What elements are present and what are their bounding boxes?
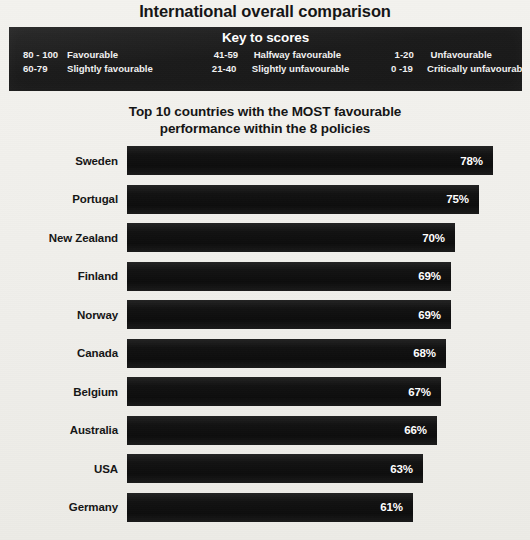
poster-page: International overall comparison Key to … xyxy=(0,0,530,540)
bar-category-label: Germany xyxy=(0,501,127,513)
bar-category-label: Finland xyxy=(0,270,127,282)
bar-track: 75% xyxy=(127,185,530,214)
bar-row: New Zealand70% xyxy=(0,223,530,252)
chart-title-line-2: performance within the 8 policies xyxy=(0,120,530,137)
key-range: 1-20 xyxy=(395,49,431,60)
bar-row: Finland69% xyxy=(0,262,530,291)
bar-row: USA63% xyxy=(0,454,530,483)
bar: 69% xyxy=(127,300,451,329)
bar: 75% xyxy=(127,185,479,214)
key-label: Critically unfavourable xyxy=(427,63,530,74)
bar: 78% xyxy=(127,146,493,175)
bar: 67% xyxy=(127,377,441,406)
bar-category-label: Portugal xyxy=(0,193,127,205)
key-range: 60-79 xyxy=(23,63,67,74)
key-to-scores-grid: 80 - 100 Favourable 41-59 Halfway favour… xyxy=(9,49,522,74)
key-row: 80 - 100 Favourable 41-59 Halfway favour… xyxy=(9,49,522,60)
bar-value-label: 78% xyxy=(460,155,493,167)
key-entry-favourable: 80 - 100 Favourable xyxy=(9,49,214,60)
key-range: 80 - 100 xyxy=(23,49,67,60)
bar-category-label: New Zealand xyxy=(0,232,127,244)
horizontal-bar-chart: Sweden78%Portugal75%New Zealand70%Finlan… xyxy=(0,146,530,540)
bar-track: 68% xyxy=(127,339,530,368)
bar-value-label: 63% xyxy=(390,463,423,475)
bar-track: 69% xyxy=(127,262,530,291)
chart-title-line-1: Top 10 countries with the MOST favourabl… xyxy=(0,103,530,120)
bar-track: 63% xyxy=(127,454,530,483)
key-label: Halfway favourable xyxy=(254,49,341,60)
bar: 61% xyxy=(127,493,413,522)
bar-track: 61% xyxy=(127,493,530,522)
key-label: Favourable xyxy=(67,49,118,60)
key-to-scores-title: Key to scores xyxy=(9,30,522,45)
key-range: 21-40 xyxy=(212,63,252,74)
bar-value-label: 70% xyxy=(422,232,455,244)
bar-category-label: USA xyxy=(0,463,127,475)
key-label: Slightly favourable xyxy=(67,63,153,74)
bar-row: Norway69% xyxy=(0,300,530,329)
key-row: 60-79 Slightly favourable 21-40 Slightly… xyxy=(9,63,522,74)
bar: 70% xyxy=(127,223,455,252)
bar-category-label: Sweden xyxy=(0,155,127,167)
bar-row: Belgium67% xyxy=(0,377,530,406)
bar-category-label: Norway xyxy=(0,309,127,321)
key-entry-slightly-unfavourable: 21-40 Slightly unfavourable xyxy=(212,63,391,74)
bar-row: Portugal75% xyxy=(0,185,530,214)
chart-title: Top 10 countries with the MOST favourabl… xyxy=(0,103,530,137)
bar: 66% xyxy=(127,416,437,445)
bar-row: Australia66% xyxy=(0,416,530,445)
key-entry-slightly-favourable: 60-79 Slightly favourable xyxy=(9,63,212,74)
bar-track: 70% xyxy=(127,223,530,252)
bar-track: 78% xyxy=(127,146,530,175)
bar-value-label: 69% xyxy=(418,309,451,321)
key-entry-critically-unfavourable: 0 -19 Critically unfavourable xyxy=(391,63,522,74)
bar-category-label: Canada xyxy=(0,347,127,359)
bar: 69% xyxy=(127,262,451,291)
bar-value-label: 66% xyxy=(404,424,437,436)
bar-row: Canada68% xyxy=(0,339,530,368)
bar-value-label: 68% xyxy=(413,347,446,359)
bar-value-label: 75% xyxy=(446,193,479,205)
key-entry-halfway-favourable: 41-59 Halfway favourable xyxy=(214,49,395,60)
key-label: Unfavourable xyxy=(431,49,492,60)
bar-track: 66% xyxy=(127,416,530,445)
bar-track: 67% xyxy=(127,377,530,406)
bar: 63% xyxy=(127,454,423,483)
bar-value-label: 61% xyxy=(380,501,413,513)
bar-row: Germany61% xyxy=(0,493,530,522)
key-range: 0 -19 xyxy=(391,63,427,74)
bar-track: 69% xyxy=(127,300,530,329)
bar-row: Sweden78% xyxy=(0,146,530,175)
bar-value-label: 69% xyxy=(418,270,451,282)
bar-category-label: Belgium xyxy=(0,386,127,398)
bar: 68% xyxy=(127,339,446,368)
bar-value-label: 67% xyxy=(408,386,441,398)
key-label: Slightly unfavourable xyxy=(252,63,350,74)
page-title: International overall comparison xyxy=(0,2,530,21)
key-entry-unfavourable: 1-20 Unfavourable xyxy=(395,49,522,60)
key-range: 41-59 xyxy=(214,49,254,60)
bar-category-label: Australia xyxy=(0,424,127,436)
key-to-scores-panel: Key to scores 80 - 100 Favourable 41-59 … xyxy=(9,27,522,91)
